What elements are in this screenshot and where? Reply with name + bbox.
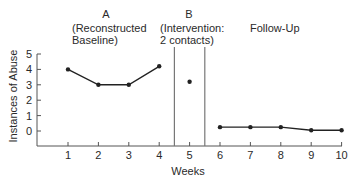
data-point (279, 125, 283, 129)
x-tick-label: 10 (335, 149, 347, 161)
data-point (96, 83, 100, 87)
x-tick-label: 8 (278, 149, 284, 161)
x-tick-label: 9 (308, 149, 314, 161)
data-point (309, 128, 313, 132)
data-point (218, 125, 222, 129)
series-line (68, 66, 159, 84)
y-tick-label: 0 (26, 125, 32, 137)
phase-change-lines (174, 47, 204, 146)
y-tick-label: 3 (26, 79, 32, 91)
y-axis-label: Instances of Abuse (7, 50, 19, 143)
y-tick-label: 1 (26, 110, 32, 122)
phase-letter-b: B (185, 8, 192, 20)
phase-label-line2: Baseline) (72, 34, 118, 46)
y-tick-label: 4 (26, 63, 32, 75)
data-point (66, 67, 70, 71)
phase-label-line1: (Reconstructed (72, 22, 147, 34)
y-tick-label: 5 (26, 48, 32, 60)
data-point (157, 64, 161, 68)
x-axis-label: Weeks (171, 165, 205, 177)
data-point (248, 125, 252, 129)
chart: A(ReconstructedBaseline)B(Intervention:2… (0, 0, 362, 181)
y-tick-label: 2 (26, 94, 32, 106)
x-tick-label: 7 (247, 149, 253, 161)
x-tick-label: 3 (126, 149, 132, 161)
x-tick-label: 2 (95, 149, 101, 161)
x-tick-label: 5 (187, 149, 193, 161)
data-point (339, 128, 343, 132)
axes: 01234512345678910 (26, 48, 348, 161)
phase-label-line1: (Intervention: (160, 22, 224, 34)
phase-label-line1: Follow-Up (250, 22, 300, 34)
x-tick-label: 4 (156, 149, 162, 161)
phase-label-line2: 2 contacts) (160, 34, 214, 46)
x-tick-label: 1 (65, 149, 71, 161)
x-tick-label: 6 (217, 149, 223, 161)
phase-letter-a: A (102, 8, 110, 20)
phase-labels: A(ReconstructedBaseline)B(Intervention:2… (72, 8, 300, 46)
data-point (187, 80, 191, 84)
data-point (127, 83, 131, 87)
